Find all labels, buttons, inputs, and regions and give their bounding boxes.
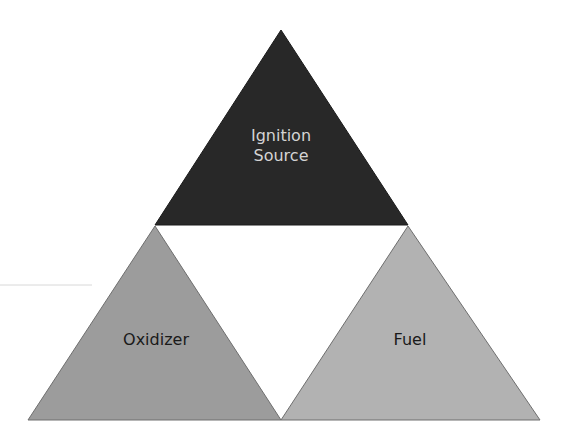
fire-triangle-diagram: Ignition Source Oxidizer Fuel [0, 0, 567, 435]
diagram-canvas: Ignition Source Oxidizer Fuel [0, 0, 567, 435]
fuel-triangle: Fuel [281, 226, 540, 420]
fuel-label: Fuel [394, 330, 427, 349]
ignition-label-line-2: Source [254, 146, 309, 165]
oxidizer-triangle-shape [28, 226, 281, 420]
oxidizer-triangle: Oxidizer [28, 226, 281, 420]
fuel-triangle-shape [281, 226, 540, 420]
ignition-source-triangle: Ignition Source [155, 30, 408, 225]
ignition-label-line-1: Ignition [251, 126, 311, 145]
oxidizer-label: Oxidizer [123, 330, 189, 349]
